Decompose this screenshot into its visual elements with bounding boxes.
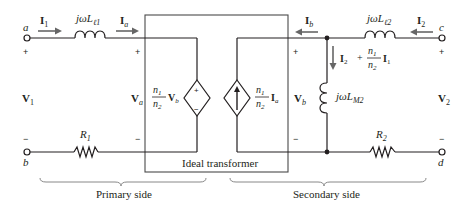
svg-text:n1: n1	[153, 84, 162, 97]
branch-current-label: I2 + n1 n2 I1	[340, 45, 391, 72]
inductor-leakage-primary: jωLℓ1	[74, 12, 105, 38]
voltage-v2: + V2 −	[438, 47, 450, 144]
svg-text:n2: n2	[368, 59, 377, 72]
svg-text:R2: R2	[375, 128, 387, 143]
terminal-a: a	[23, 21, 30, 41]
svg-text:Vb: Vb	[294, 92, 306, 107]
svg-text:a: a	[23, 21, 29, 33]
svg-text:+: +	[135, 47, 140, 57]
terminal-d: d	[438, 149, 445, 168]
svg-text:+: +	[194, 86, 199, 95]
voltage-v1: + V1 −	[22, 47, 34, 144]
secondary-side-brace: Secondary side	[230, 178, 426, 200]
svg-text:−: −	[135, 134, 140, 144]
svg-text:+: +	[293, 47, 298, 57]
svg-text:+: +	[439, 47, 444, 57]
svg-text:I2: I2	[417, 14, 425, 29]
inductor-leakage-secondary: jωLℓ2	[365, 12, 395, 38]
current-ib-arrow: Ib	[295, 14, 318, 36]
svg-text:c: c	[439, 21, 444, 33]
svg-text:I2: I2	[340, 53, 348, 66]
svg-text:+: +	[23, 47, 28, 57]
voltage-source-gain-label: n1 n2 Vb	[152, 84, 179, 111]
svg-text:n2: n2	[153, 98, 162, 111]
svg-text:V2: V2	[438, 92, 450, 107]
ideal-transformer-label: Ideal transformer	[182, 157, 258, 169]
transformer-circuit-diagram: Ideal transformer a b c d jωLℓ	[0, 0, 460, 211]
terminal-b: b	[23, 149, 30, 168]
svg-text:R1: R1	[79, 128, 91, 143]
svg-text:jωLℓ1: jωLℓ1	[74, 12, 100, 27]
svg-text:−: −	[439, 134, 444, 144]
current-branch-arrow: I2 + n1 n2 I1	[330, 45, 391, 72]
voltage-va: + Va −	[131, 47, 143, 144]
svg-text:jωLℓ2: jωLℓ2	[365, 12, 391, 27]
svg-text:Ib: Ib	[305, 14, 313, 29]
resistor-r2: R2	[370, 128, 395, 157]
current-source-gain-label: n1 n2 Ia	[255, 84, 279, 111]
current-ia-arrow: Ia	[116, 14, 139, 35]
svg-text:jωLM2: jωLM2	[334, 90, 364, 105]
svg-text:n2: n2	[256, 98, 265, 111]
svg-text:Vb: Vb	[168, 92, 179, 105]
dependent-current-source: n1 n2 Ia	[224, 80, 279, 116]
resistor-r1: R1	[74, 128, 98, 157]
svg-text:n1: n1	[256, 84, 265, 97]
current-i1-arrow: I1	[38, 14, 62, 35]
svg-text:−: −	[23, 134, 28, 144]
primary-side-brace: Primary side	[40, 178, 206, 200]
svg-text:b: b	[23, 156, 29, 168]
svg-text:+: +	[357, 52, 363, 63]
svg-text:I1: I1	[40, 14, 48, 29]
svg-text:−: −	[194, 105, 199, 114]
svg-text:V1: V1	[22, 92, 34, 107]
svg-text:−: −	[293, 134, 298, 144]
svg-text:Secondary side: Secondary side	[293, 188, 360, 200]
svg-text:Ia: Ia	[271, 92, 279, 105]
svg-text:n1: n1	[368, 45, 377, 58]
terminal-c: c	[439, 21, 445, 41]
svg-text:Va: Va	[131, 92, 143, 107]
top-wire	[30, 38, 439, 80]
svg-text:Ia: Ia	[120, 14, 128, 29]
voltage-vb: + Vb −	[293, 47, 306, 144]
svg-text:d: d	[438, 156, 444, 168]
dependent-voltage-source: + − n1 n2 Vb	[152, 80, 210, 116]
current-i2-arrow: I2	[410, 14, 433, 36]
svg-text:I1: I1	[383, 53, 391, 66]
svg-text:Primary side: Primary side	[96, 188, 152, 200]
